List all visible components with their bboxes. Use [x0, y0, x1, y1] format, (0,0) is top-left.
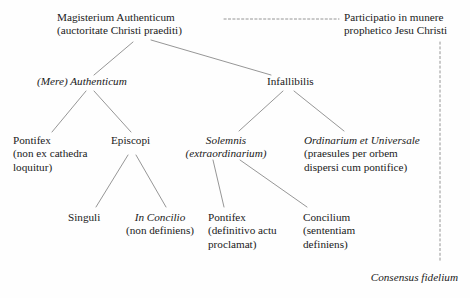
- node-pontifex-definitivo-actu: Pontifex (definitivo actu proclamat): [208, 211, 277, 251]
- node-ordinarium-line1: Ordinarium et Universale: [304, 134, 420, 147]
- edge-root-to-mere-authenticum: [94, 42, 133, 75]
- node-magisterium-authenticum: Magisterium Authenticum (auctoritate Chr…: [57, 11, 182, 38]
- node-ordinarium-line2: (praesules per orbem: [304, 147, 420, 160]
- node-mere-authenticum-label: (Mere) Authenticum: [37, 75, 127, 88]
- node-concilium-line2: (sententiam: [303, 224, 355, 237]
- node-consensus-fidelium-label: Consensus fidelium: [330, 271, 458, 284]
- node-in-concilio: In Concilio (non definiens): [121, 211, 199, 238]
- node-participatio-line1: Participatio in munere: [344, 11, 447, 24]
- node-pontifex-non-ex-cathedra: Pontifex (non ex cathedra loquitur): [13, 134, 88, 174]
- edge-mere-to-pontifex: [52, 91, 86, 132]
- node-in-concilio-line1: In Concilio: [121, 211, 199, 224]
- node-concilium-line3: definiens): [303, 238, 355, 251]
- node-root-line2: (auctoritate Christi praediti): [57, 24, 182, 37]
- node-concilium-line1: Concilium: [303, 211, 355, 224]
- node-singuli: Singuli: [68, 211, 100, 224]
- edge-episcopi-to-in-concilio: [136, 155, 166, 207]
- node-pontifex-def-line1: Pontifex: [208, 211, 277, 224]
- edge-root-to-infallibilis: [151, 40, 271, 75]
- edge-solemnis-to-pontifex-definitivo: [213, 160, 224, 207]
- node-pontifex-def-line3: proclamat): [208, 238, 277, 251]
- node-root-line1: Magisterium Authenticum: [57, 11, 182, 24]
- edge-mere-to-episcopi: [94, 91, 131, 132]
- node-episcopi: Episcopi: [111, 134, 150, 147]
- edge-infallibilis-to-ordinarium: [294, 91, 344, 131]
- node-solemnis-line1: Solemnis: [178, 134, 274, 147]
- node-pontifex-nec-line2: (non ex cathedra: [13, 147, 88, 160]
- edge-episcopi-to-singuli: [96, 155, 128, 207]
- node-participatio-in-munere: Participatio in munere prophetico Jesu C…: [344, 11, 447, 38]
- node-concilium: Concilium (sententiam definiens): [303, 211, 355, 251]
- magisterium-diagram: Magisterium Authenticum (auctoritate Chr…: [0, 0, 470, 298]
- node-solemnis-line2: (extraordinarium): [178, 147, 274, 160]
- node-pontifex-def-line2: (definitivo actu: [208, 224, 277, 237]
- node-solemnis: Solemnis (extraordinarium): [178, 134, 274, 161]
- node-ordinarium-et-universale: Ordinarium et Universale (praesules per …: [304, 134, 420, 174]
- node-pontifex-nec-line1: Pontifex: [13, 134, 88, 147]
- node-in-concilio-line2: (non definiens): [121, 224, 199, 237]
- node-participatio-line2: prophetico Jesu Christi: [344, 24, 447, 37]
- node-ordinarium-line3: dispersi cum pontifice): [304, 161, 420, 174]
- node-episcopi-label: Episcopi: [111, 134, 150, 147]
- node-consensus-fidelium: Consensus fidelium: [330, 271, 458, 284]
- node-infallibilis-label: Infallibilis: [267, 75, 314, 88]
- node-infallibilis: Infallibilis: [267, 75, 314, 88]
- edge-infallibilis-to-solemnis: [239, 91, 283, 131]
- node-mere-authenticum: (Mere) Authenticum: [37, 75, 127, 88]
- edge-solemnis-to-concilium: [240, 160, 307, 207]
- node-pontifex-nec-line3: loquitur): [13, 161, 88, 174]
- node-singuli-label: Singuli: [68, 211, 100, 224]
